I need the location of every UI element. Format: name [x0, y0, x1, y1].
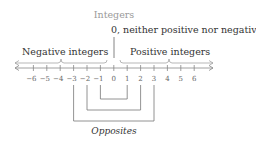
opposites-label: Opposites — [91, 126, 137, 136]
tick-label: −1 — [93, 75, 103, 83]
tick-label: 1 — [125, 75, 129, 83]
tick-label: −6 — [26, 75, 37, 83]
positive-integers-label: Positive integers — [130, 46, 210, 57]
opposite-bracket-1 — [100, 85, 127, 99]
tick-label: −5 — [40, 75, 50, 83]
tick-label: −2 — [80, 75, 90, 83]
positive-brace — [120, 59, 213, 66]
tick-label: 6 — [192, 75, 197, 83]
negative-brace — [15, 59, 107, 66]
opposite-bracket-3 — [74, 85, 154, 121]
tick-label: −4 — [53, 75, 64, 83]
integers-diagram: Integers 0, neither positive nor negativ… — [0, 0, 256, 142]
tick-label: −3 — [66, 75, 76, 83]
diagram-title: Integers — [94, 9, 135, 20]
tick-labels: −6 −5 −4 −3 −2 −1 0 1 2 3 4 5 6 — [26, 75, 197, 83]
zero-label: 0, neither positive nor negative — [111, 24, 256, 35]
negative-integers-label: Negative integers — [22, 46, 108, 57]
tick-label: 2 — [138, 75, 142, 83]
opposite-bracket-2 — [87, 85, 141, 110]
tick-label: 5 — [179, 75, 183, 83]
tick-label: 4 — [165, 75, 170, 83]
opposites-brackets — [74, 85, 154, 121]
tick-label: 3 — [152, 75, 156, 83]
tick-label: 0 — [112, 75, 116, 83]
